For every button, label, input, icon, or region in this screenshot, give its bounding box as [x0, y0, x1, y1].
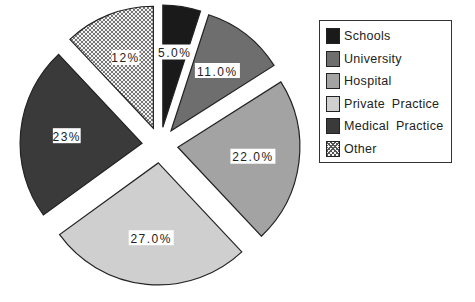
legend-label: Schools: [344, 29, 391, 43]
legend-swatch-medical-practice: [326, 118, 340, 134]
legend-item-university: University: [326, 48, 451, 71]
slice-value-label: 23%: [53, 130, 82, 144]
pie-chart: 5.0%11.0%22.0%27.0%23%12%: [0, 0, 320, 302]
legend-swatch-other: [326, 141, 340, 157]
legend-label: Other: [344, 142, 377, 156]
slice-value-label: 5.0%: [158, 46, 191, 60]
legend-item-medical-practice: Medical Practice: [326, 115, 451, 138]
legend-item-other: Other: [326, 138, 451, 161]
legend-swatch-private-practice: [326, 96, 340, 112]
legend-label: Hospital: [344, 74, 392, 88]
legend-label: Medical Practice: [344, 119, 444, 133]
legend-label: Private Practice: [344, 97, 439, 111]
slice-value-label: 12%: [111, 51, 140, 65]
legend-item-private-practice: Private Practice: [326, 93, 451, 116]
legend-item-schools: Schools: [326, 25, 451, 48]
slice-value-label: 11.0%: [197, 65, 238, 79]
legend-swatch-university: [326, 51, 340, 67]
chart-legend: Schools University Hospital Private Prac…: [319, 20, 452, 163]
slice-value-label: 22.0%: [232, 150, 274, 164]
legend-label: University: [344, 52, 402, 66]
legend-item-hospital: Hospital: [326, 70, 451, 93]
slice-value-label: 27.0%: [130, 232, 172, 246]
legend-swatch-hospital: [326, 73, 340, 89]
legend-swatch-schools: [326, 28, 340, 44]
